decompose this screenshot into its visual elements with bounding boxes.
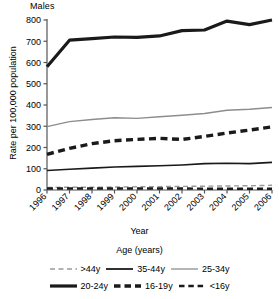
legend-item-35-44y[interactable]: 35-44y (106, 264, 165, 274)
series-line (47, 20, 272, 67)
legend-title: Age (years) (0, 245, 279, 255)
x-tick-label: 2003 (185, 191, 206, 212)
x-tick-label: 2006 (252, 191, 273, 212)
y-tick-label: 400 (26, 100, 41, 110)
x-tick-label: 2000 (117, 191, 138, 212)
y-tick-label: 500 (26, 79, 41, 89)
y-tick-label: 800 (26, 15, 41, 25)
legend-item-16-19y[interactable]: 16-19y (114, 281, 173, 291)
legend-label: 35-44y (137, 264, 165, 274)
chart-legend: >44y35-44y25-34y20-24y16-19y<16y (0, 260, 279, 294)
x-tick-label: 1996 (27, 191, 48, 212)
legend-swatch-icon (50, 264, 77, 274)
series-line (47, 127, 272, 154)
legend-item-25-34y[interactable]: 25-34y (171, 264, 230, 274)
legend-swatch-icon (179, 281, 206, 291)
x-tick-label: 1999 (95, 191, 116, 212)
legend-item--16y[interactable]: <16y (179, 281, 230, 291)
plot-area: 0100200300400500600700800199619971998199… (0, 0, 279, 225)
legend-swatch-icon (50, 281, 77, 291)
legend-label: 16-19y (145, 281, 173, 291)
y-tick-label: 700 (26, 37, 41, 47)
y-tick-label: 100 (26, 164, 41, 174)
y-tick-label: 200 (26, 143, 41, 153)
x-tick-label: 1997 (50, 191, 71, 212)
legend-swatch-icon (106, 264, 133, 274)
x-tick-label: 1998 (72, 191, 93, 212)
legend-label: <16y (210, 281, 230, 291)
x-tick-label: 2005 (230, 191, 251, 212)
legend-label: >44y (81, 264, 101, 274)
series-line (47, 185, 272, 187)
x-axis-label: Year (0, 226, 279, 236)
chart-figure: Males Rate per 100,000 population 010020… (0, 0, 279, 299)
legend-item--44y[interactable]: >44y (50, 264, 101, 274)
y-tick-label: 300 (26, 122, 41, 132)
legend-label: 20-24y (81, 281, 109, 291)
legend-swatch-icon (114, 281, 141, 291)
series-line (47, 162, 272, 170)
legend-row: 20-24y16-19y<16y (0, 277, 279, 294)
x-tick-label: 2002 (162, 191, 183, 212)
legend-item-20-24y[interactable]: 20-24y (50, 281, 109, 291)
x-tick-label: 2001 (140, 191, 161, 212)
legend-swatch-icon (171, 264, 198, 274)
y-tick-label: 600 (26, 58, 41, 68)
legend-row: >44y35-44y25-34y (0, 260, 279, 277)
legend-label: 25-34y (202, 264, 230, 274)
x-tick-label: 2004 (207, 191, 228, 212)
series-line (47, 108, 272, 127)
